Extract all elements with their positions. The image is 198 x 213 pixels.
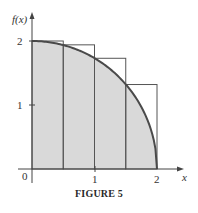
figure-caption: FIGURE 5 [0, 188, 198, 199]
tick-label-x1: 1 [92, 173, 98, 185]
origin-label: 0 [22, 170, 28, 182]
chart: f(x) x 0 1 2 1 2 [0, 0, 198, 213]
y-axis-arrow-icon [30, 12, 35, 19]
tick-label-y1: 1 [17, 99, 23, 111]
x-axis-label: x [181, 171, 187, 183]
tick-label-x2: 2 [154, 173, 160, 185]
y-axis-label: f(x) [12, 13, 28, 26]
tick-label-y2: 2 [17, 35, 23, 47]
